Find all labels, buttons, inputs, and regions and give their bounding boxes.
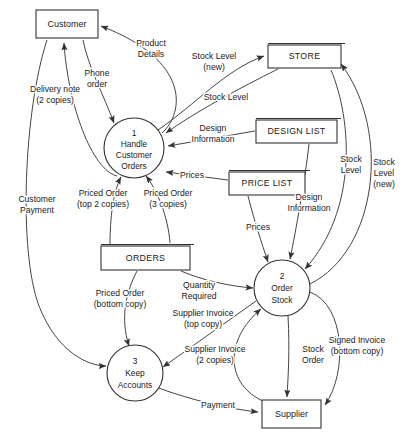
flow-label-supplier-invoice-top: Supplier InvoiceSupplier Invoice(top cop… [172,308,233,329]
flow-label-text: Phone [85,68,110,78]
process-1-line3: Orders [121,161,147,171]
flow-label-text: Prices [246,222,270,232]
flow-label-text: Required [182,291,217,301]
flow-label-text: Order [302,355,324,365]
flow-supplier-invoice-2 [234,309,265,402]
flow-label-text: Level [374,168,395,178]
flow-label-prices-2: PricesPrices [246,222,270,232]
external-entity-customer[interactable]: Customer [36,10,98,38]
process-1-number: 1 [132,128,137,138]
flow-label-priced-order-top2: Priced OrderPriced Order(top 2 copies)(t… [77,188,129,209]
store-label: STORE [289,51,321,61]
flow-label-text: Quantity [183,280,216,290]
flow-label-customer-payment: CustomerCustomerPaymentPayment [18,194,55,215]
flow-label-prices-1: PricesPrices [180,170,204,180]
process-3-keep-accounts[interactable]: 3 Keep Accounts [107,345,163,401]
flow-label-text: (new) [203,62,225,72]
flow-label-text: Signed Invoice [329,335,386,345]
flow-label-text: Details [138,49,164,59]
customer-label: Customer [47,19,86,29]
flow-label-text: Design [296,192,323,202]
design-list-label: DESIGN LIST [267,126,325,136]
flow-label-product-details: ProductProductDetailsDetails [136,38,166,59]
flow-label-text: Stock [373,157,395,167]
flow-label-text: (3 copies) [149,199,187,209]
flow-label-text: Stock [302,344,324,354]
flow-label-text: (2 copies) [196,355,234,365]
process-2-line1: Order [271,283,293,293]
flow-label-text: Payment [20,205,55,215]
flow-label-text: Delivery note [30,84,80,94]
orders-label: ORDERS [126,253,165,263]
flow-label-supplier-invoice-2: Supplier InvoiceSupplier Invoice(2 copie… [184,344,245,365]
price-list-label: PRICE LIST [242,178,293,188]
process-1-line2: Customer [116,150,153,160]
flow-label-text: Payment [201,400,236,410]
flow-label-text: (bottom copy) [331,346,384,356]
process-1-line1: Handle [121,139,148,149]
flow-label-phone-order: PhonePhoneorderorder [85,68,110,89]
flow-label-text: Priced Order [144,188,193,198]
flow-label-text: Level [341,165,362,175]
flow-label-text: Supplier Invoice [172,308,233,318]
flow-label-stock-level-new-right: StockStockLevelLevel(new)(new) [373,157,395,189]
flow-label-text: (2 copies) [36,95,74,105]
process-3-line1: Keep [125,368,145,378]
flow-label-text: Stock Level [192,51,237,61]
external-entities-layer: Customer Supplier [36,10,321,428]
flow-label-text: (bottom copy) [94,299,147,309]
flow-label-text: Priced Order [79,188,128,198]
process-1-handle-customer-orders[interactable]: 1 Handle Customer Orders [104,118,164,178]
flow-label-text: Supplier Invoice [184,344,245,354]
flow-label-stock-level-top: Stock LevelStock Level [204,92,249,102]
flow-label-delivery-note: Delivery noteDelivery note(2 copies)(2 c… [30,84,80,105]
flow-label-text: Stock [340,154,362,164]
flow-label-text: Information [288,203,331,213]
flow-label-text: Information [192,134,235,144]
flow-label-text: (top 2 copies) [77,199,129,209]
flow-label-text: (new) [373,179,395,189]
supplier-label: Supplier [275,409,308,419]
flow-label-priced-order-3: Priced OrderPriced Order(3 copies)(3 cop… [144,188,193,209]
flow-label-text: Priced Order [96,288,145,298]
flow-stock-order [287,316,289,397]
flow-label-text: (top copy) [184,319,222,329]
process-2-order-stock[interactable]: 2 Order Stock [254,260,310,316]
flow-label-stock-level-new-top: Stock LevelStock Level(new)(new) [192,51,237,72]
flow-label-text: order [87,79,107,89]
flow-label-stock-level-right: StockStockLevelLevel [340,154,362,175]
flow-label-text: Design [200,123,227,133]
flow-label-payment: PaymentPayment [201,400,236,410]
flow-label-text: Product [136,38,166,48]
flow-label-text: Prices [180,170,204,180]
flow-label-priced-order-bottom: Priced OrderPriced Order(bottom copy)(bo… [94,288,147,309]
flow-label-text: Stock Level [204,92,249,102]
data-store-design-list[interactable]: DESIGN LIST [256,119,341,144]
process-2-number: 2 [280,271,285,281]
process-2-line2: Stock [272,295,294,305]
data-store-store[interactable]: STORE [268,44,345,69]
data-flow-diagram-canvas: Customer Supplier STORE DESIGN LIST PRIC… [0,0,404,444]
process-3-number: 3 [133,356,138,366]
flow-label-stock-order: StockStockOrderOrder [302,344,324,365]
flow-label-signed-invoice: Signed InvoiceSigned Invoice(bottom copy… [329,335,386,356]
flow-label-text: Customer [18,194,55,204]
flow-label-quantity-required: QuantityQuantityRequiredRequired [182,280,217,301]
flow-label-design-information-1: DesignDesignInformationInformation [192,123,235,144]
process-3-line2: Accounts [118,380,152,390]
flow-priced-order-3 [146,176,170,243]
data-store-orders[interactable]: ORDERS [101,245,194,271]
external-entity-supplier[interactable]: Supplier [262,400,321,428]
